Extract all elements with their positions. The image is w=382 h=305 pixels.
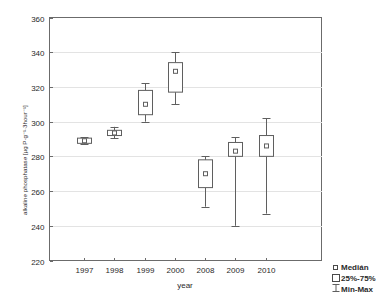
median-marker [174,69,178,73]
y-tick-label: 280 [31,153,45,162]
chart-legend: Medián 25%-75% Min-Max [333,263,376,294]
y-tick-label: 300 [31,119,45,128]
x-tick-label: 2009 [227,266,245,275]
chart-canvas: 220240260280300320340360 199719981999200… [0,0,382,305]
median-square-small-icon [334,266,338,270]
legend-item-median: Medián [334,263,369,272]
median-marker [234,149,238,153]
legend-item-minmax: Min-Max [333,284,374,294]
legend-label-median: Medián [341,263,369,272]
x-tick-label: 1997 [76,266,94,275]
y-tick-label: 260 [31,188,45,197]
median-marker [204,172,208,176]
box-plot-item [78,137,92,144]
median-marker [265,144,269,148]
boxplot-chart: 220240260280300320340360 199719981999200… [0,0,382,305]
legend-label-minmax: Min-Max [341,285,374,294]
median-marker [144,102,148,106]
median-marker [113,131,117,135]
y-tick-label: 220 [31,258,45,267]
x-tick-label: 1999 [137,266,155,275]
box-square-icon [333,275,340,282]
y-tick-label: 240 [31,223,45,232]
legend-label-quartiles: 25%-75% [341,274,376,283]
x-tick-label: 2008 [197,266,215,275]
y-tick-label: 320 [31,84,45,93]
median-marker [83,139,87,143]
y-tick-label: 340 [31,49,45,58]
x-tick-label: 2010 [258,266,276,275]
y-tick-label: 360 [31,15,45,24]
quartile-box [169,63,183,93]
x-tick-label: 2000 [167,266,185,275]
x-tick-label: 1998 [106,266,124,275]
legend-item-quartiles: 25%-75% [333,274,376,283]
x-axis-title: year [177,281,193,290]
y-axis-title: alkaline phosphatase [µg P·g⁻¹·3hour⁻¹] [21,105,28,215]
